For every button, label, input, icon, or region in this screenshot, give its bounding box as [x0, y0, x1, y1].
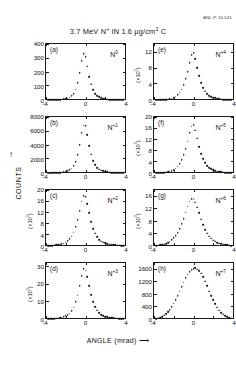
panel-e-x-tick: [194, 97, 195, 99]
data-point: [85, 269, 87, 271]
panel-e-y-multiplier: (×103): [133, 67, 141, 82]
species-charge: +5: [221, 123, 226, 128]
species-charge: +4: [221, 50, 226, 55]
panel-b-y-tick: [46, 145, 49, 146]
panel-f: (×103)048121620(f)N+5-404: [130, 111, 234, 184]
panel-a-y-tick-label: 300: [34, 54, 44, 61]
panel-h-y-tick-label: 800: [142, 290, 152, 297]
data-point: [187, 206, 189, 208]
panel-e-x-tick-top: [194, 44, 195, 46]
panel-b-x-tick: [125, 170, 126, 172]
panel-h: 040080012001600(h)N+7-404: [130, 257, 234, 330]
panel-a-x-axis-labels: -404: [45, 100, 126, 110]
panel-e-letter: (e): [158, 46, 166, 53]
data-point: [177, 94, 179, 96]
data-point: [169, 309, 171, 311]
panel-e-y-tick-right: [231, 68, 233, 69]
data-point: [189, 271, 191, 273]
figure-title: 3.7 MeV N+ IN 1.6 µg/cm2 C: [0, 26, 236, 36]
data-point: [199, 212, 201, 214]
panel-e-y-tick-label: 4: [149, 80, 152, 87]
panel-h-y-tick: [154, 281, 157, 282]
data-point: [87, 203, 89, 205]
data-point: [197, 138, 199, 140]
data-point: [71, 167, 73, 169]
species-charge: +1: [113, 123, 118, 128]
data-point: [197, 206, 199, 208]
panel-c-x-minor-tick: [66, 243, 67, 245]
panel-h-x-minor-tick: [174, 316, 175, 318]
data-point: [208, 290, 210, 292]
panel-g-y-tick-label: 16: [145, 192, 152, 199]
panel-f-y-tick: [154, 139, 157, 140]
data-point: [93, 160, 95, 162]
data-point: [206, 285, 208, 287]
panel-h-y-tick: [154, 306, 157, 307]
panel-d-y-tick: [46, 301, 49, 302]
anl-report-code: ANL-P-16,541: [203, 15, 232, 20]
data-point: [181, 88, 183, 90]
panel-b: 02000400060008000(b)N+1-404: [22, 111, 126, 184]
data-point: [189, 62, 191, 64]
data-point: [201, 82, 203, 84]
data-point: [216, 307, 218, 309]
panel-b-letter: (b): [50, 119, 58, 126]
panel-d-y-tick-right: [123, 266, 125, 267]
data-point: [173, 237, 175, 239]
figure-root: ANL-P-16,541 3.7 MeV N+ IN 1.6 µg/cm2 C …: [0, 0, 236, 365]
panel-e-x-axis-labels: -404: [153, 100, 234, 110]
data-point: [91, 221, 93, 223]
panel-e-x-tick: [233, 97, 234, 99]
panel-c-x-tick-top: [125, 190, 126, 192]
panel-c-y-tick-label: 12: [37, 208, 44, 215]
panel-g-y-tick-right: [231, 233, 233, 234]
data-point: [181, 223, 183, 225]
panel-f-x-tick-top: [154, 117, 155, 119]
panel-g-x-tick: [233, 243, 234, 245]
data-point: [93, 301, 95, 303]
panel-f-y-tick: [154, 161, 157, 162]
data-point: [95, 233, 97, 235]
data-point: [81, 275, 83, 277]
panel-a: 0100200300400(a)N0-404: [22, 38, 126, 111]
panel-c-x-tick-top: [46, 190, 47, 192]
data-point: [95, 164, 97, 166]
panel-f-y-tick-right: [231, 150, 233, 151]
panel-f-y-tick-label: 12: [145, 135, 152, 142]
panel-a-species-label: N0: [110, 50, 118, 58]
data-point: [173, 303, 175, 305]
data-point: [183, 84, 185, 86]
panel-a-y-tick-label: 100: [34, 82, 44, 89]
data-point: [205, 280, 207, 282]
panel-b-y-tick: [46, 158, 49, 159]
panel-b-plot-area: (b)N+1: [45, 116, 126, 173]
panel-b-y-tick-right: [123, 158, 125, 159]
panel-b-y-tick: [46, 131, 49, 132]
data-point: [87, 276, 89, 278]
panel-g-x-tick-label: 4: [232, 246, 235, 253]
panel-a-y-tick: [46, 72, 49, 73]
data-point: [175, 299, 177, 301]
panel-b-species-label: N+1: [107, 123, 118, 131]
panel-f-y-tick-right: [231, 128, 233, 129]
data-point: [81, 200, 83, 202]
panel-e-y-tick: [154, 52, 157, 53]
panel-g-y-tick-label: 12: [145, 204, 152, 211]
panel-h-x-tick-label: 0: [192, 319, 195, 326]
data-point: [167, 311, 169, 313]
data-point: [81, 132, 83, 134]
data-point: [201, 272, 203, 274]
data-point: [195, 58, 197, 60]
panel-d-x-tick: [125, 316, 126, 318]
panel-b-x-tick-label: 4: [124, 173, 127, 180]
panel-c-letter: (c): [50, 192, 57, 199]
panel-e-y-tick-label: 8: [149, 64, 152, 71]
panel-g-x-tick-label: 0: [192, 246, 195, 253]
data-point: [189, 201, 191, 203]
data-point: [206, 232, 208, 234]
data-point: [214, 303, 216, 305]
panel-f-x-axis-labels: -404: [153, 173, 234, 183]
data-point: [210, 295, 212, 297]
panel-d-x-tick-top: [86, 263, 87, 265]
panel-b-x-tick-label: 0: [84, 173, 87, 180]
